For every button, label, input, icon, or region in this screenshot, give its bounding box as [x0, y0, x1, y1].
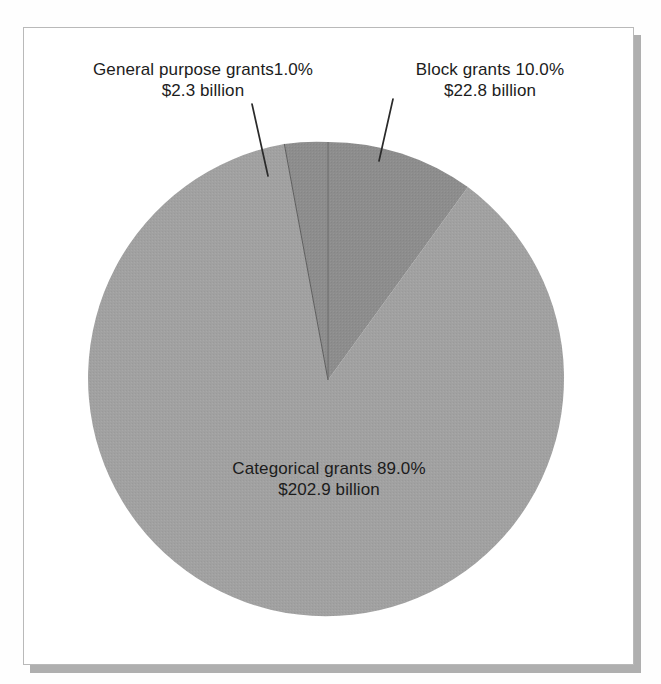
pie-chart-svg — [0, 0, 661, 684]
pie-label-block-grants-line2: $22.8 billion — [378, 80, 602, 101]
pie-label-categorical-grants-line1: Categorical grants 89.0% — [183, 458, 475, 479]
pie-label-block-grants: Block grants 10.0% $22.8 billion — [378, 59, 602, 101]
pie-label-categorical-grants-line2: $202.9 billion — [183, 479, 475, 500]
pie-label-general-purpose-grants-line1: General purpose grants1.0% — [74, 59, 332, 80]
pie-label-categorical-grants: Categorical grants 89.0% $202.9 billion — [183, 458, 475, 500]
figure-root: General purpose grants1.0% $2.3 billion … — [0, 0, 661, 684]
pie-chart: General purpose grants1.0% $2.3 billion … — [0, 0, 661, 684]
pie-label-block-grants-line1: Block grants 10.0% — [378, 59, 602, 80]
pie-label-general-purpose-grants: General purpose grants1.0% $2.3 billion — [74, 59, 332, 101]
pie-label-general-purpose-grants-line2: $2.3 billion — [74, 80, 332, 101]
